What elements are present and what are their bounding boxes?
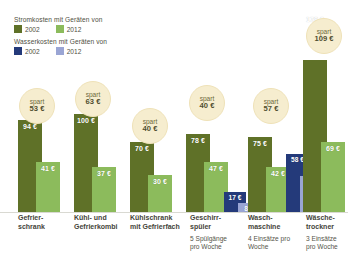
legend-title-strom: Stromkosten mit Geräten von [14,16,107,23]
bar-waeschetrockner-power-2012: 69 € [321,142,345,212]
bar-group-gefrierschrank: 94 € 41 € spart 53 € [18,60,72,212]
savings-badge-value-waschmaschine: 57 € [264,105,279,113]
plot-area: 94 € 41 € spart 53 € 100 € 37 € spart 63… [0,60,348,212]
bar-value-gefrierschrank-power-2012: 41 € [36,165,60,172]
category-name-waschmaschine: Wasch- maschine [248,214,306,232]
bar-group-kuehlschrank-gefrierfach: 70 € 30 € spart 40 € [130,60,184,212]
energy-cost-chart: Stromkosten mit Geräten von 2002 2012 Wa… [0,0,348,277]
legend-swatch-strom-2002 [14,25,22,33]
legend-label-strom-2002: 2002 [25,26,40,33]
category-sub-geschirrspueler: 5 Spülgänge pro Woche [190,235,246,252]
bar-value-kuehl-gefrierkombi-power-2012: 37 € [92,170,116,177]
legend-title-wasser: Wasserkosten mit Geräten von [14,38,107,45]
savings-badge-geschirrspueler: spart 40 € [189,85,225,121]
bar-value-kuehl-gefrierkombi-power-2002: 100 € [74,117,98,124]
category-label-kuehl-gefrierkombi: Kühl- und Gefrierkombi [74,214,130,235]
category-label-waeschetrockner: Wäsche- trockner 3 Einsätze pro Woche [306,214,348,252]
savings-badge-value-kuehlschrank-gefrierfach: 40 € [143,125,158,133]
axis-baseline [0,212,348,213]
category-label-gefrierschrank: Gefrier- schrank [18,214,70,235]
savings-badge-value-kuehl-gefrierkombi: 63 € [86,98,101,106]
category-labels: Gefrier- schrank Kühl- und Gefrierkombi … [0,214,348,277]
legend-key-wasser-2002: 2002 [14,47,40,55]
legend-label-wasser-2002: 2002 [25,48,40,55]
category-label-kuehlschrank-gefrierfach: Kühlschrank mit Gefrierfach [130,214,190,235]
bar-group-waeschetrockner: 178 € 69 € spart 109 € [303,60,348,212]
bar-value-geschirrspueler-power-2012: 47 € [204,165,228,172]
legend-key-strom-2002: 2002 [14,25,40,33]
category-name-kuehlschrank-gefrierfach: Kühlschrank mit Gefrierfach [130,214,190,232]
bar-group-kuehl-gefrierkombi: 100 € 37 € spart 63 € [74,60,128,212]
bar-value-kuehlschrank-gefrierfach-power-2002: 70 € [130,145,154,152]
category-label-waschmaschine: Wasch- maschine 4 Einsätze pro Woche [248,214,306,252]
category-name-geschirrspueler: Geschirr- spüler [190,214,246,232]
category-label-geschirrspueler: Geschirr- spüler 5 Spülgänge pro Woche [190,214,246,252]
savings-badge-gefrierschrank: spart 53 € [19,88,55,124]
savings-badge-kuehl-gefrierkombi: spart 63 € [75,81,111,117]
legend-swatch-wasser-2002 [14,47,22,55]
legend-key-strom-2012: 2012 [56,25,82,33]
bar-value-waeschetrockner-power-2012: 69 € [321,145,345,152]
category-name-kuehl-gefrierkombi: Kühl- und Gefrierkombi [74,214,130,232]
legend-key-wasser-2012: 2012 [56,47,82,55]
bar-gefrierschrank-power-2012: 41 € [36,162,60,212]
savings-badge-waeschetrockner: spart 109 € [306,18,342,54]
savings-badge-value-gefrierschrank: 53 € [30,105,45,113]
bar-kuehl-gefrierkombi-power-2012: 37 € [92,167,116,212]
bar-value-gefrierschrank-power-2002: 94 € [18,123,42,130]
bar-value-kuehlschrank-gefrierfach-power-2012: 30 € [148,178,172,185]
category-sub-waschmaschine: 4 Einsätze pro Woche [248,235,306,252]
savings-badge-kuehlschrank-gefrierfach: spart 40 € [132,108,168,144]
bar-value-geschirrspueler-water-2002: 17 € [224,194,246,201]
legend-swatch-strom-2012 [56,25,64,33]
savings-badge-value-geschirrspueler: 40 € [200,102,215,110]
category-name-waeschetrockner: Wäsche- trockner [306,214,348,232]
chart-legend: Stromkosten mit Geräten von 2002 2012 Wa… [14,16,107,60]
category-sub-waeschetrockner: 3 Einsätze pro Woche [306,235,348,252]
savings-badge-waschmaschine: spart 57 € [253,88,289,124]
bar-value-geschirrspueler-power-2002: 78 € [186,137,210,144]
bar-group-geschirrspueler: 78 € 47 € 17 € 8 € spart 40 € [186,60,252,212]
legend-swatch-wasser-2012 [56,47,64,55]
bar-value-waschmaschine-power-2002: 75 € [248,140,272,147]
legend-label-wasser-2012: 2012 [67,48,82,55]
legend-group-wasser: Wasserkosten mit Geräten von 2002 2012 [14,38,107,55]
legend-group-strom: Stromkosten mit Geräten von 2002 2012 [14,16,107,33]
savings-badge-value-waeschetrockner: 109 € [314,35,333,43]
category-name-gefrierschrank: Gefrier- schrank [18,214,70,232]
legend-label-strom-2012: 2012 [67,26,82,33]
bar-kuehlschrank-gefrierfach-power-2012: 30 € [148,175,172,212]
